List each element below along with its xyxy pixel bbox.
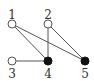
edges [12,24,85,61]
node-label-5: 5 [81,67,89,81]
node-5-filled [81,57,89,65]
node-label-4: 4 [44,67,52,81]
node-3-open [8,57,16,65]
node-4-filled [44,57,52,65]
edge-2-5 [48,24,85,61]
bipartite-graph: 12345 [0,0,94,81]
edge-1-4 [12,24,48,61]
node-label-3: 3 [8,67,16,81]
node-label-1: 1 [8,8,16,22]
node-label-2: 2 [44,8,52,22]
